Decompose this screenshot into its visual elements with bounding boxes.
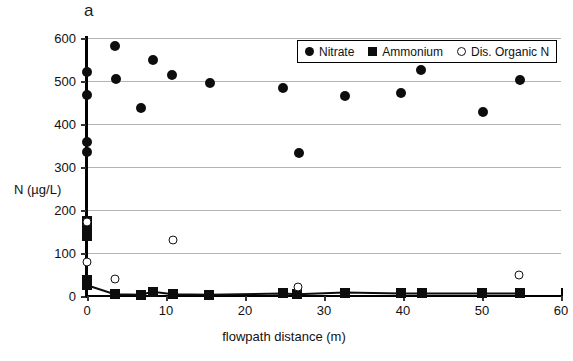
- legend-entry: Dis. Organic N: [457, 46, 549, 58]
- data-point-nitrate: [110, 41, 120, 51]
- legend-entry: Ammonium: [368, 46, 443, 58]
- y-axis-tick: [81, 253, 86, 255]
- data-point-ammonium: [204, 290, 214, 300]
- data-point-nitrate: [340, 91, 350, 101]
- data-point-ammonium: [515, 288, 525, 298]
- data-point-nitrate: [294, 148, 304, 158]
- data-point-ammonium: [417, 288, 427, 298]
- data-point-dissolved-organic-n: [515, 270, 524, 279]
- open-circle-icon: [457, 47, 466, 56]
- y-axis-tick: [81, 210, 86, 212]
- legend-entry: Nitrate: [305, 46, 354, 58]
- x-axis-title: flowpath distance (m): [0, 330, 568, 344]
- y-axis-tick: [81, 38, 86, 40]
- data-point-nitrate: [515, 75, 525, 85]
- data-point-nitrate: [167, 70, 177, 80]
- y-axis-tick-label: 200: [26, 204, 76, 217]
- legend-entry-label: Nitrate: [319, 46, 354, 58]
- data-point-nitrate: [205, 78, 215, 88]
- data-point-ammonium: [168, 289, 178, 299]
- data-point-nitrate: [148, 55, 158, 65]
- data-point-ammonium: [477, 288, 487, 298]
- data-point-dissolved-organic-n: [293, 282, 302, 291]
- panel-label: a: [84, 2, 94, 19]
- x-axis-tick: [561, 296, 563, 301]
- filled-square-icon: [368, 47, 377, 56]
- x-axis-tick-label: 40: [383, 304, 423, 317]
- y-axis-tick: [81, 81, 86, 83]
- data-point-ammonium: [340, 288, 350, 298]
- data-point-dissolved-organic-n: [169, 236, 178, 245]
- data-point-nitrate: [396, 88, 406, 98]
- y-axis-tick-label: 100: [26, 247, 76, 260]
- chart-legend: NitrateAmmoniumDis. Organic N: [297, 40, 557, 63]
- x-axis-tick-label: 60: [541, 304, 573, 317]
- y-axis-tick-label: 400: [26, 118, 76, 131]
- data-point-ammonium: [110, 289, 120, 299]
- data-point-ammonium: [136, 290, 146, 300]
- data-point-nitrate: [111, 74, 121, 84]
- x-axis-tick: [245, 296, 247, 301]
- legend-entry-label: Dis. Organic N: [471, 46, 549, 58]
- data-point-nitrate: [82, 67, 92, 77]
- data-point-nitrate: [478, 107, 488, 117]
- data-point-ammonium: [148, 287, 158, 297]
- data-point-dissolved-organic-n: [83, 257, 92, 266]
- data-point-nitrate: [278, 83, 288, 93]
- data-point-ammonium: [82, 280, 92, 290]
- ammonium-connecting-line: [87, 38, 561, 296]
- y-axis-title: N (µg/L): [14, 183, 61, 197]
- x-axis-tick-label: 0: [67, 304, 107, 317]
- x-axis-tick: [324, 296, 326, 301]
- y-axis-tick: [81, 167, 86, 169]
- data-point-nitrate: [82, 90, 92, 100]
- y-axis-tick-label: 300: [26, 161, 76, 174]
- data-point-nitrate: [82, 147, 92, 157]
- x-axis-tick-label: 20: [225, 304, 265, 317]
- data-point-nitrate: [136, 103, 146, 113]
- data-point-dissolved-organic-n: [110, 274, 119, 283]
- legend-entry-label: Ammonium: [382, 46, 443, 58]
- data-point-ammonium: [82, 231, 92, 241]
- filled-circle-icon: [305, 47, 314, 56]
- x-axis-tick-label: 50: [462, 304, 502, 317]
- y-axis-tick-label: 500: [26, 75, 76, 88]
- data-point-dissolved-organic-n: [83, 218, 92, 227]
- y-axis-tick: [81, 124, 86, 126]
- y-axis-tick-label: 600: [26, 32, 76, 45]
- x-axis-tick-label: 10: [146, 304, 186, 317]
- plot-area: [87, 38, 561, 296]
- data-point-nitrate: [416, 65, 426, 75]
- x-axis-tick: [87, 296, 89, 301]
- data-point-ammonium: [396, 288, 406, 298]
- data-point-ammonium: [278, 288, 288, 298]
- y-axis-tick-label: 0: [26, 290, 76, 303]
- x-axis-tick-label: 30: [304, 304, 344, 317]
